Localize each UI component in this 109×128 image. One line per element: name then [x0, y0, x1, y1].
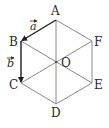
hexagon-diagram: A B C D E F O a b [0, 0, 109, 128]
label-center-o: O [61, 56, 71, 70]
label-vertex-b: B [9, 35, 18, 49]
vector-a-arrow [22, 20, 56, 41]
label-vertex-a: A [50, 4, 60, 18]
hexagon-figure: A B C D E F O a b [0, 0, 109, 128]
label-vertex-e: E [94, 78, 103, 92]
center-point-o [55, 61, 57, 63]
label-vertex-f: F [94, 35, 102, 49]
label-vector-b: b [7, 57, 14, 70]
label-vertex-d: D [51, 106, 61, 120]
label-vertex-c: C [9, 78, 18, 92]
label-vector-a: a [30, 20, 37, 33]
